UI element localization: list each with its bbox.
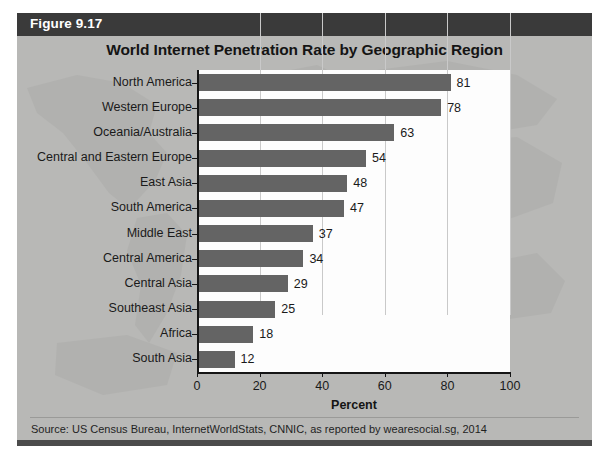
category-axis-labels: North AmericaWestern EuropeOceania/Austr… [17,70,192,372]
x-tick-label: 40 [315,379,329,393]
y-axis-spine [197,70,199,373]
bar[interactable] [197,175,347,192]
bar[interactable] [197,200,344,217]
bar-value-label: 48 [353,176,367,190]
category-label: South America [20,200,192,214]
category-label: East Asia [20,175,192,189]
x-tick-label: 100 [500,379,521,393]
category-label: North America [20,75,192,89]
bar-value-label: 34 [309,252,323,266]
bar-value-label: 81 [457,76,471,90]
bar-value-label: 25 [281,302,295,316]
bar-row[interactable]: 25 [197,301,510,318]
category-label: Central America [20,251,192,265]
x-tick-label: 80 [440,379,454,393]
bar-row[interactable]: 63 [197,124,510,141]
x-tick-mark [322,372,323,377]
chart-title: World Internet Penetration Rate by Geogr… [17,41,592,59]
x-tick-mark [385,372,386,377]
bar-row[interactable]: 47 [197,200,510,217]
bar-value-label: 29 [294,277,308,291]
figure-label: Figure 9.17 [30,16,102,31]
source-note: Source: US Census Bureau, InternetWorldS… [31,423,487,435]
gridline [510,13,511,315]
bar-value-label: 63 [400,126,414,140]
x-tick-mark [197,372,198,377]
source-divider [30,417,579,418]
bar-row[interactable]: 78 [197,99,510,116]
bar[interactable] [197,225,313,242]
x-tick-mark [260,372,261,377]
category-label: Africa [20,326,192,340]
category-label: Central and Eastern Europe [20,150,192,164]
figure-label-bar: Figure 9.17 [17,13,592,36]
bar[interactable] [197,351,235,368]
category-label: South Asia [20,351,192,365]
bar[interactable] [197,74,451,91]
bottom-band [17,440,592,446]
bar-value-label: 37 [319,227,333,241]
x-axis-label: Percent [197,398,511,412]
x-tick-mark [510,372,511,377]
bar[interactable] [197,326,253,343]
bar[interactable] [197,275,288,292]
bar-row[interactable]: 54 [197,150,510,167]
x-tick-label: 0 [194,379,201,393]
bar[interactable] [197,250,303,267]
bar-value-label: 54 [372,151,386,165]
bar[interactable] [197,150,366,167]
bar[interactable] [197,124,394,141]
category-label: Southeast Asia [20,301,192,315]
figure-panel: Figure 9.17 World Internet Penetration R… [17,13,592,446]
x-tick-label: 20 [253,379,267,393]
bar-row[interactable]: 12 [197,351,510,368]
bar-row[interactable]: 48 [197,175,510,192]
bar-row[interactable]: 34 [197,250,510,267]
bar-row[interactable]: 81 [197,74,510,91]
x-tick-label: 60 [378,379,392,393]
bar-row[interactable]: 37 [197,225,510,242]
bar-value-label: 18 [259,327,273,341]
x-tick-mark [447,372,448,377]
bar[interactable] [197,99,441,116]
bar-row[interactable]: 18 [197,326,510,343]
category-label: Oceania/Australia [20,125,192,139]
bar-value-label: 78 [447,101,461,115]
category-label: Middle East [20,226,192,240]
bar-value-label: 12 [241,352,255,366]
bar-value-label: 47 [350,201,364,215]
bar[interactable] [197,301,275,318]
x-axis-spine [197,372,511,374]
category-label: Central Asia [20,276,192,290]
bar-row[interactable]: 29 [197,275,510,292]
category-label: Western Europe [20,100,192,114]
